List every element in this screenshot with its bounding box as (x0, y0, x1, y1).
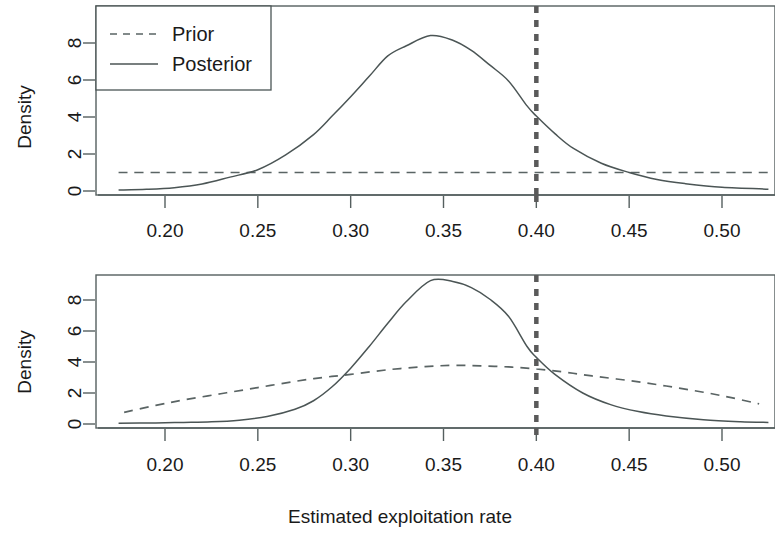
legend-box (96, 6, 271, 90)
x-tick-label-bottom-0.45: 0.45 (611, 454, 648, 475)
x-tick-label-bottom-0.25: 0.25 (239, 454, 276, 475)
x-axis-title: Estimated exploitation rate (288, 506, 512, 527)
y-tick-label-bottom-2: 2 (64, 388, 85, 399)
y-tick-label-bottom-8: 8 (64, 295, 85, 306)
y-axis-title-bottom: Density (14, 330, 35, 394)
curves-bottom (119, 275, 769, 439)
y-tick-label-bottom-4: 4 (64, 356, 85, 367)
x-tick-label-bottom-0.35: 0.35 (425, 454, 462, 475)
y-tick-label-bottom-0: 0 (64, 419, 85, 430)
x-tick-label-bottom-0.20: 0.20 (147, 454, 184, 475)
x-tick-label-top-0.30: 0.30 (332, 220, 369, 241)
y-tick-label-top-6: 6 (64, 75, 85, 86)
density-figure: 02468Density0.200.250.300.350.400.450.50… (0, 0, 775, 535)
y-tick-label-top-4: 4 (64, 111, 85, 122)
x-tick-label-bottom-0.50: 0.50 (704, 454, 741, 475)
x-tick-label-top-0.25: 0.25 (239, 220, 276, 241)
x-tick-label-bottom-0.40: 0.40 (518, 454, 555, 475)
legend-label-posterior: Posterior (172, 53, 252, 75)
curve-prior-bottom (124, 365, 759, 412)
x-tick-label-top-0.35: 0.35 (425, 220, 462, 241)
x-tick-label-top-0.50: 0.50 (704, 220, 741, 241)
curve-posterior-bottom (119, 279, 769, 423)
y-tick-label-bottom-6: 6 (64, 326, 85, 337)
legend[interactable]: PriorPosterior (96, 6, 271, 90)
y-tick-label-top-8: 8 (64, 38, 85, 49)
density-plot-svg: 02468Density0.200.250.300.350.400.450.50… (0, 0, 775, 535)
plot-frame-bottom (96, 275, 775, 428)
y-tick-label-top-2: 2 (64, 149, 85, 160)
x-tick-label-top-0.45: 0.45 (611, 220, 648, 241)
panel-bottom: 02468Density0.200.250.300.350.400.450.50 (14, 275, 775, 475)
legend-label-prior: Prior (172, 23, 215, 45)
x-tick-label-top-0.40: 0.40 (518, 220, 555, 241)
y-axis-title-top: Density (14, 85, 35, 149)
y-tick-label-top-0: 0 (64, 186, 85, 197)
x-tick-label-top-0.20: 0.20 (147, 220, 184, 241)
x-tick-label-bottom-0.30: 0.30 (332, 454, 369, 475)
